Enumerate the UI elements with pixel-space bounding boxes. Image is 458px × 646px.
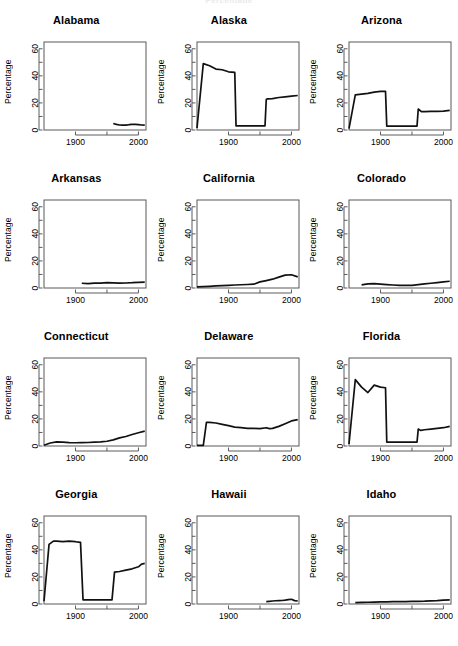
y-tick-label: 20 (30, 98, 40, 108)
y-tick-label: 0 (183, 601, 193, 606)
plot-box (197, 358, 299, 446)
y-axis-label: Percentage (155, 510, 167, 602)
plot-area: 020406019002000 (171, 348, 301, 468)
panel-delaware: DelawarePercentage020406019002000 (153, 326, 306, 484)
x-tick-label: 2000 (282, 295, 301, 305)
panel-title: Colorado (305, 172, 458, 184)
series-line (44, 431, 145, 445)
y-tick-label: 60 (30, 518, 40, 528)
plot-area: 020406019002000 (171, 506, 301, 626)
panel-georgia: GeorgiaPercentage020406019002000 (0, 484, 153, 642)
panel-title: Hawaii (153, 488, 306, 500)
y-tick-label: 20 (335, 98, 345, 108)
panel-alaska: AlaskaPercentage020406019002000 (153, 10, 306, 168)
plot-box (44, 516, 146, 604)
y-tick-label: 0 (183, 127, 193, 132)
y-tick-label: 60 (30, 360, 40, 370)
y-tick-label: 0 (183, 443, 193, 448)
y-tick-label: 60 (183, 360, 193, 370)
series-line (44, 541, 145, 601)
y-tick-label: 40 (30, 71, 40, 81)
plot-area: 020406019002000 (323, 348, 453, 468)
panel-hawaii: HawaiiPercentage020406019002000 (153, 484, 306, 642)
panel-colorado: ColoradoPercentage020406019002000 (305, 168, 458, 326)
series-line (197, 64, 298, 128)
y-tick-label: 0 (30, 443, 40, 448)
y-axis-label: Percentage (155, 194, 167, 286)
y-tick-label: 20 (30, 256, 40, 266)
y-axis-label: Percentage (2, 194, 14, 286)
x-tick-label: 2000 (282, 453, 301, 463)
x-tick-label: 1900 (66, 611, 85, 621)
plot-area: 020406019002000 (18, 190, 148, 310)
y-tick-label: 60 (335, 518, 345, 528)
y-tick-label: 40 (335, 545, 345, 555)
y-tick-label: 20 (183, 256, 193, 266)
y-tick-label: 20 (183, 98, 193, 108)
panel-grid: AlabamaPercentage020406019002000AlaskaPe… (0, 10, 458, 642)
y-tick-label: 0 (335, 127, 345, 132)
plot-area: 020406019002000 (18, 348, 148, 468)
x-tick-label: 1900 (371, 295, 390, 305)
y-tick-label: 60 (183, 44, 193, 54)
panel-idaho: IdahoPercentage020406019002000 (305, 484, 458, 642)
plot-box (349, 516, 451, 604)
plot-box (349, 358, 451, 446)
plot-box (197, 42, 299, 130)
y-tick-label: 0 (30, 285, 40, 290)
y-tick-label: 40 (183, 229, 193, 239)
y-tick-label: 60 (30, 202, 40, 212)
y-tick-label: 60 (335, 44, 345, 54)
plot-box (44, 200, 146, 288)
y-axis-label: Percentage (307, 194, 319, 286)
plot-area: 020406019002000 (18, 32, 148, 152)
y-tick-label: 60 (183, 202, 193, 212)
series-line (362, 281, 450, 285)
series-line (266, 599, 297, 601)
y-axis-label: Percentage (307, 352, 319, 444)
y-tick-label: 0 (30, 127, 40, 132)
x-tick-label: 2000 (129, 295, 148, 305)
y-axis-label: Percentage (2, 510, 14, 602)
plot-area: 020406019002000 (323, 32, 453, 152)
y-tick-label: 40 (335, 387, 345, 397)
figure-root: Percentage AlabamaPercentage020406019002… (0, 0, 458, 646)
x-tick-label: 1900 (219, 611, 238, 621)
panel-title: Alabama (0, 14, 153, 26)
x-tick-label: 2000 (129, 611, 148, 621)
y-tick-label: 40 (335, 71, 345, 81)
y-tick-label: 40 (183, 71, 193, 81)
y-tick-label: 60 (335, 360, 345, 370)
y-tick-label: 20 (183, 572, 193, 582)
plot-box (197, 516, 299, 604)
series-line (349, 91, 450, 128)
panel-alabama: AlabamaPercentage020406019002000 (0, 10, 153, 168)
plot-area: 020406019002000 (171, 32, 301, 152)
y-tick-label: 40 (183, 387, 193, 397)
panel-arkansas: ArkansasPercentage020406019002000 (0, 168, 153, 326)
x-tick-label: 1900 (66, 137, 85, 147)
series-line (82, 282, 145, 283)
x-tick-label: 2000 (434, 137, 453, 147)
y-tick-label: 20 (30, 414, 40, 424)
y-tick-label: 20 (30, 572, 40, 582)
y-axis-label: Percentage (155, 36, 167, 128)
y-tick-label: 0 (183, 285, 193, 290)
panel-title: Idaho (305, 488, 458, 500)
panel-title: Arkansas (0, 172, 153, 184)
x-tick-label: 1900 (371, 137, 390, 147)
x-tick-label: 1900 (371, 453, 390, 463)
y-tick-label: 40 (183, 545, 193, 555)
panel-connecticut: ConnecticutPercentage020406019002000 (0, 326, 153, 484)
x-tick-label: 2000 (434, 611, 453, 621)
x-tick-label: 2000 (434, 453, 453, 463)
y-tick-label: 60 (335, 202, 345, 212)
y-axis-label: Percentage (155, 352, 167, 444)
plot-area: 020406019002000 (323, 190, 453, 310)
y-tick-label: 40 (30, 545, 40, 555)
panel-california: CaliforniaPercentage020406019002000 (153, 168, 306, 326)
series-line (349, 380, 450, 444)
y-tick-label: 0 (30, 601, 40, 606)
series-line (197, 275, 298, 287)
x-tick-label: 2000 (282, 137, 301, 147)
